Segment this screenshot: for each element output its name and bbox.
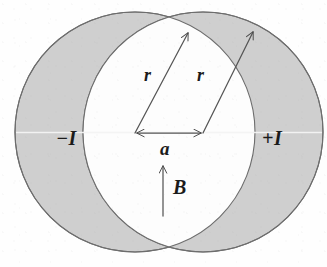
label-magnetic-field-b: B [173,177,186,197]
label-separation-a: a [160,139,170,158]
physics-diagram-figure: −I +I r r a B [0,0,327,267]
label-radius-left: r [144,66,151,84]
label-negative-current: −I [56,128,77,148]
label-positive-current: +I [262,128,282,148]
label-radius-right: r [197,66,204,84]
